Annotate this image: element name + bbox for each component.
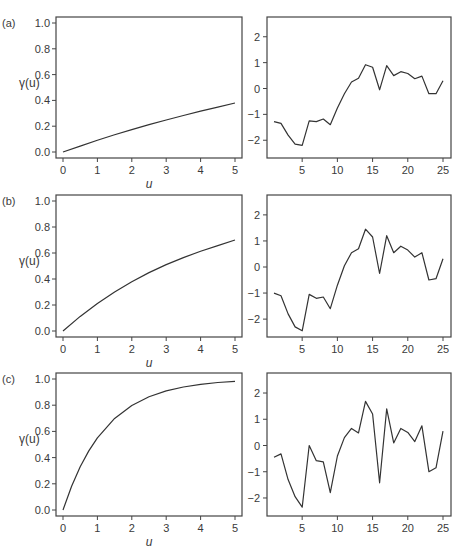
y-tick-label: 0.4 — [35, 452, 50, 464]
y-tick-label: 1.0 — [35, 195, 50, 207]
series-panel-b: −2−1012510152025 — [247, 195, 451, 355]
y-tick-label: 0.2 — [35, 478, 50, 490]
y-tick-label: 0.8 — [35, 399, 50, 411]
variogram-panel-b: 0.00.20.40.60.81.0012345uγ(u)(b) — [2, 195, 242, 370]
y-tick-label: 1 — [254, 57, 260, 69]
x-tick-label: 5 — [232, 343, 238, 355]
x-tick-label: 10 — [331, 164, 343, 176]
y-tick-label: 1.0 — [35, 373, 50, 385]
x-tick-label: 1 — [94, 522, 100, 534]
y-tick-label: 2 — [254, 31, 260, 43]
x-tick-label: 3 — [163, 164, 169, 176]
y-tick-label: 0.2 — [35, 299, 50, 311]
y-tick-label: 0.4 — [35, 273, 50, 285]
axes-frame — [267, 17, 451, 158]
x-tick-label: 25 — [437, 522, 449, 534]
x-tick-label: 0 — [60, 522, 66, 534]
y-tick-label: 2 — [254, 387, 260, 399]
y-tick-label: 0.0 — [35, 325, 50, 337]
axes-frame — [267, 195, 451, 337]
x-axis-label: u — [146, 535, 153, 549]
figure: 0.00.20.40.60.81.0012345uγ(u)(a)−2−10125… — [0, 0, 466, 550]
x-axis-label: u — [146, 356, 153, 370]
panel-label: (a) — [2, 17, 15, 29]
y-tick-label: −2 — [247, 492, 260, 504]
x-tick-label: 15 — [366, 522, 378, 534]
data-line — [274, 229, 443, 331]
panel-label: (c) — [2, 373, 15, 385]
x-tick-label: 10 — [331, 522, 343, 534]
y-tick-label: −1 — [247, 466, 260, 478]
x-tick-label: 15 — [366, 343, 378, 355]
y-tick-label: −2 — [247, 313, 260, 325]
y-tick-label: 1 — [254, 235, 260, 247]
x-tick-label: 5 — [299, 522, 305, 534]
x-tick-label: 0 — [60, 343, 66, 355]
variogram-panel-a: 0.00.20.40.60.81.0012345uγ(u)(a) — [2, 17, 242, 191]
x-tick-label: 2 — [129, 522, 135, 534]
x-tick-label: 3 — [163, 343, 169, 355]
y-tick-label: 0.0 — [35, 504, 50, 516]
axes-frame — [56, 17, 242, 158]
y-tick-label: 0 — [254, 261, 260, 273]
x-tick-label: 15 — [366, 164, 378, 176]
x-tick-label: 20 — [402, 164, 414, 176]
series-panel-c: −2−1012510152025 — [247, 373, 451, 534]
x-tick-label: 20 — [402, 343, 414, 355]
x-tick-label: 20 — [402, 522, 414, 534]
series-panel-a: −2−1012510152025 — [247, 17, 451, 176]
x-tick-label: 5 — [232, 522, 238, 534]
x-tick-label: 3 — [163, 522, 169, 534]
x-tick-label: 1 — [94, 343, 100, 355]
y-axis-label: γ(u) — [19, 432, 40, 446]
data-line — [63, 103, 235, 152]
y-tick-label: 0.0 — [35, 146, 50, 158]
x-tick-label: 25 — [437, 164, 449, 176]
y-tick-label: −2 — [247, 134, 260, 146]
x-tick-label: 25 — [437, 343, 449, 355]
data-line — [274, 65, 443, 146]
x-tick-label: 1 — [94, 164, 100, 176]
y-tick-label: 0.2 — [35, 120, 50, 132]
x-tick-label: 5 — [232, 164, 238, 176]
y-tick-label: −1 — [247, 108, 260, 120]
y-tick-label: 0.8 — [35, 221, 50, 233]
data-line — [63, 240, 235, 331]
variogram-panel-c: 0.00.20.40.60.81.0012345uγ(u)(c) — [2, 373, 242, 549]
axes-frame — [56, 373, 242, 516]
y-tick-label: 0.4 — [35, 94, 50, 106]
y-tick-label: 0 — [254, 440, 260, 452]
y-tick-label: 1.0 — [35, 17, 50, 29]
x-tick-label: 10 — [331, 343, 343, 355]
x-tick-label: 4 — [198, 343, 204, 355]
data-line — [274, 401, 443, 507]
y-tick-label: 0.8 — [35, 43, 50, 55]
x-axis-label: u — [146, 177, 153, 191]
y-axis-label: γ(u) — [19, 254, 40, 268]
data-line — [63, 381, 235, 510]
x-tick-label: 5 — [299, 343, 305, 355]
y-tick-label: −1 — [247, 287, 260, 299]
x-tick-label: 5 — [299, 164, 305, 176]
x-tick-label: 2 — [129, 343, 135, 355]
x-tick-label: 4 — [198, 522, 204, 534]
axes-frame — [56, 195, 242, 337]
y-tick-label: 0 — [254, 83, 260, 95]
x-tick-label: 4 — [198, 164, 204, 176]
panel-label: (b) — [2, 195, 15, 207]
y-tick-label: 2 — [254, 209, 260, 221]
x-tick-label: 0 — [60, 164, 66, 176]
x-tick-label: 2 — [129, 164, 135, 176]
y-axis-label: γ(u) — [19, 76, 40, 90]
y-tick-label: 1 — [254, 413, 260, 425]
